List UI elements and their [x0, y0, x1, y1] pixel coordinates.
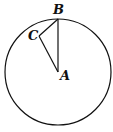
geometry-diagram: B C A: [0, 0, 113, 132]
segment-ac: [39, 36, 58, 72]
label-c: C: [28, 28, 39, 43]
label-b: B: [52, 2, 64, 17]
label-a: A: [58, 68, 70, 83]
